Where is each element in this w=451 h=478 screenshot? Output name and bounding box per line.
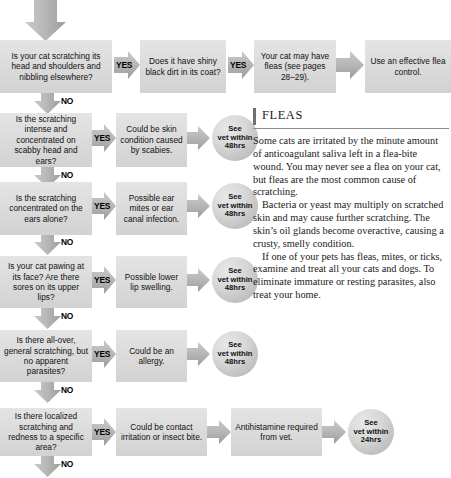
row-3-outcome-circle[interactable]: See vet within 48hrs xyxy=(212,183,258,229)
arrow-row1-no xyxy=(34,93,61,114)
row-5-yes-label: YES xyxy=(94,349,110,359)
arrow-row5-to-circle xyxy=(187,342,210,366)
row-4-outcome-text: See vet within 48hrs xyxy=(217,267,252,293)
arrow-row3-to-circle xyxy=(187,194,210,218)
row-4-step-1-box[interactable]: Possible lower lip swelling. xyxy=(116,256,187,308)
row-2-outcome-circle[interactable]: See vet within 48hrs xyxy=(212,115,258,161)
row-3-outcome-text: See vet within 48hrs xyxy=(217,193,252,219)
row-4-outcome-circle[interactable]: See vet within 48hrs xyxy=(212,257,258,303)
row-6-step-1: Could be contact irritation or insect bi… xyxy=(120,422,203,443)
row-4-no-label: NO xyxy=(61,311,73,321)
row-6-outcome-text: See vet within 24hrs xyxy=(353,419,388,445)
row-6-question-box[interactable]: Is there localized scratching and rednes… xyxy=(0,408,92,456)
row-4-question: Is your cat pawing at its face? Are ther… xyxy=(4,261,88,303)
fleas-sidebar: FLEAS Some cats are irritated by the min… xyxy=(253,108,449,302)
row-1-no-label: NO xyxy=(61,96,73,106)
row-5-question-box[interactable]: Is there all-over, general scratching, b… xyxy=(0,330,92,382)
fleas-heading-wrap: FLEAS xyxy=(253,108,449,126)
row-3-no-label: NO xyxy=(61,237,73,247)
row-1-question: Is your cat scratching its head and shou… xyxy=(4,51,108,82)
row-2-step-1-box[interactable]: Could be skin condition caused by scabie… xyxy=(116,113,187,167)
flowchart-canvas: Is your cat scratching its head and shou… xyxy=(0,0,451,478)
row-5-question: Is there all-over, general scratching, b… xyxy=(4,335,88,377)
row-3-question-box[interactable]: Is the scratching concentrated on the ea… xyxy=(0,182,92,235)
fleas-paragraph-2: Bacteria or yeast may multiply on scratc… xyxy=(253,199,449,250)
arrow-row2-to-circle xyxy=(187,126,210,150)
arrow-row6-to-circle xyxy=(322,420,346,444)
fleas-paragraph-1: Some cats are irritated by the minute am… xyxy=(253,135,449,199)
arrow-row4-to-circle xyxy=(187,268,210,292)
heading-divider xyxy=(253,128,449,129)
row-6-step-2: Antihistamine required from vet. xyxy=(235,422,318,443)
row-6-yes-label: YES xyxy=(94,427,110,437)
row-1-step-2-box[interactable]: Your cat may have fleas (see pages 28–29… xyxy=(254,40,336,93)
row-5-step-1: Could be an allergy. xyxy=(120,346,183,367)
row-1-step-3: Use an effective flea control. xyxy=(369,56,447,77)
arrow-row6-no xyxy=(34,456,61,477)
arrow-row5-no xyxy=(34,382,61,403)
row-1-step-2: Your cat may have fleas (see pages 28–29… xyxy=(258,51,332,82)
row-1-question-box[interactable]: Is your cat scratching its head and shou… xyxy=(0,40,112,93)
row-3-yes-label: YES xyxy=(94,201,110,211)
row-1-step-3-box[interactable]: Use an effective flea control. xyxy=(365,40,451,93)
row-2-yes-label: YES xyxy=(94,133,110,143)
row-2-question: Is the scratching intense and concentrat… xyxy=(4,114,88,166)
row-1-step-1: Does it have shiny black dirt in its coa… xyxy=(144,56,222,77)
row-3-step-1-box[interactable]: Possible ear mites or ear canal infectio… xyxy=(116,182,187,235)
arrow-row6-step2 xyxy=(207,420,231,444)
row-2-question-box[interactable]: Is the scratching intense and concentrat… xyxy=(0,113,92,167)
heading-accent-bar xyxy=(253,108,256,125)
arrow-row1-to-control xyxy=(336,51,364,79)
row-5-outcome-text: See vet within 48hrs xyxy=(217,341,252,367)
arrow-row3-no xyxy=(34,234,61,255)
row-6-step-2-box[interactable]: Antihistamine required from vet. xyxy=(231,408,322,456)
row-1-step-1-box[interactable]: Does it have shiny black dirt in its coa… xyxy=(140,40,226,93)
row-2-step-1: Could be skin condition caused by scabie… xyxy=(120,124,183,155)
row-6-outcome-circle[interactable]: See vet within 24hrs xyxy=(348,409,394,455)
row-4-step-1: Possible lower lip swelling. xyxy=(120,272,183,293)
row-6-question: Is there localized scratching and rednes… xyxy=(4,411,88,453)
row-5-outcome-circle[interactable]: See vet within 48hrs xyxy=(212,331,258,377)
row-4-question-box[interactable]: Is your cat pawing at its face? Are ther… xyxy=(0,256,92,308)
row-2-outcome-text: See vet within 48hrs xyxy=(217,125,252,151)
row-3-question: Is the scratching concentrated on the ea… xyxy=(4,193,88,224)
arrow-row4-no xyxy=(34,308,61,329)
row-5-step-1-box[interactable]: Could be an allergy. xyxy=(116,330,187,382)
fleas-body: Some cats are irritated by the minute am… xyxy=(253,135,449,302)
row-3-step-1: Possible ear mites or ear canal infectio… xyxy=(120,193,183,224)
row-5-no-label: NO xyxy=(61,385,73,395)
row-6-no-label: NO xyxy=(61,459,73,469)
fleas-heading: FLEAS xyxy=(262,108,449,123)
row-4-yes-label: YES xyxy=(94,275,110,285)
entry-arrow-down xyxy=(25,0,66,41)
row-1-yes-label-1: YES xyxy=(116,60,132,70)
row-6-step-1-box[interactable]: Could be contact irritation or insect bi… xyxy=(116,408,207,456)
fleas-paragraph-3: If one of your pets has fleas, mites, or… xyxy=(253,251,449,302)
row-2-no-label: NO xyxy=(61,170,73,180)
row-1-yes-label-2: YES xyxy=(230,60,246,70)
